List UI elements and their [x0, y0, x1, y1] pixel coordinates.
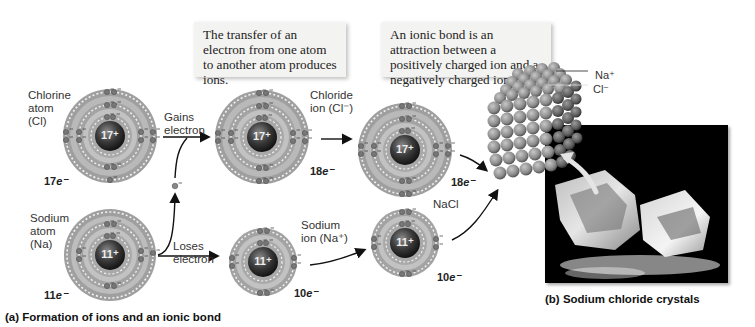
nacl-sodium-electron-count: 10e⁻ — [437, 271, 461, 284]
e-symbol: e⁻ — [56, 289, 68, 301]
sodium-atom-electron-count: 11e⁻ — [44, 289, 68, 302]
chloride-ion-label-line1: Chloride — [310, 89, 353, 102]
gains-electron-label: Gains electron — [164, 111, 205, 137]
e-symbol: e⁻ — [306, 287, 318, 299]
chlorine-atom-label: Chlorine atom (Cl) — [28, 89, 71, 128]
e-symbol: e⁻ — [463, 176, 475, 188]
nacl-label: NaCl — [433, 198, 459, 211]
crystal-legend-cl: Cl⁻ — [593, 83, 609, 96]
sodium-ion-label-line2: ion (Na⁺) — [301, 232, 348, 245]
callout-electron-transfer: The transfer of an electron from one ato… — [194, 22, 346, 77]
nucleus-label-na-ion: 11⁺ — [251, 255, 275, 268]
sodium-ion-label-line1: Sodium — [301, 219, 348, 232]
nucleus-label-cl-atom: 17⁺ — [98, 129, 122, 142]
sodium-atom-label-line1: Sodium — [30, 212, 69, 225]
chlorine-atom-electron-count: 17e⁻ — [44, 175, 68, 188]
loses-electron-label: Loses electron — [173, 240, 214, 266]
crystal-legend-na: Na⁺ — [595, 69, 615, 82]
magnify-arrow — [560, 150, 610, 195]
sodium-atom-label-line3: (Na) — [30, 238, 69, 251]
count: 17 — [44, 175, 56, 187]
e-symbol: e⁻ — [56, 175, 68, 187]
gains-line2: electron — [164, 124, 205, 137]
sodium-atom-label: Sodium atom (Na) — [30, 212, 69, 251]
chlorine-atom-label-line3: (Cl) — [28, 115, 71, 128]
count: 10 — [294, 287, 306, 299]
gains-line1: Gains — [164, 111, 205, 124]
caption-a: (a) Formation of ions and an ionic bond — [5, 311, 221, 323]
nucleus-label-cl-ion: 17⁺ — [250, 130, 274, 143]
chlorine-atom-label-line2: atom — [28, 102, 71, 115]
count: 11 — [44, 289, 56, 301]
e-symbol: e⁻ — [449, 271, 461, 283]
sodium-atom-label-line2: atom — [30, 225, 69, 238]
loses-line1: Loses — [173, 240, 214, 253]
chloride-ion-label-line2: ion (Cl⁻) — [310, 102, 353, 115]
nucleus-label-nacl-cl: 17⁺ — [393, 143, 417, 156]
free-electron — [172, 183, 182, 189]
chloride-ion-label: Chloride ion (Cl⁻) — [310, 89, 353, 115]
sodium-ion-electron-count: 10e⁻ — [294, 287, 318, 300]
count: 10 — [437, 271, 449, 283]
nucleus-label-na-atom: 11⁺ — [98, 248, 122, 261]
chloride-ion-electron-count: 18e⁻ — [310, 165, 334, 178]
caption-b: (b) Sodium chloride crystals — [545, 293, 700, 305]
nucleus-label-nacl-na: 11⁺ — [393, 236, 417, 249]
e-symbol: e⁻ — [322, 165, 334, 177]
loses-line2: electron — [173, 253, 214, 266]
count: 18 — [310, 165, 322, 177]
nacl-chloride-electron-count: 18e⁻ — [451, 176, 475, 189]
sodium-ion-label: Sodium ion (Na⁺) — [301, 219, 348, 245]
count: 18 — [451, 176, 463, 188]
chlorine-atom-label-line1: Chlorine — [28, 89, 71, 102]
